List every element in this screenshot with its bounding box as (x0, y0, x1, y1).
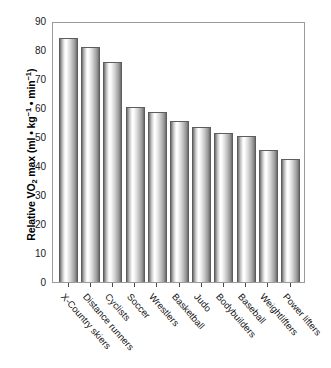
bars-container (53, 23, 304, 282)
bar (103, 62, 122, 282)
bar (170, 121, 189, 282)
y-axis-title-tail: ) (25, 69, 37, 72)
y-axis-tick-label: 90 (0, 17, 46, 27)
bar (214, 133, 233, 282)
y-axis-tick-label: 70 (0, 75, 46, 85)
x-axis-tick-mark (112, 283, 113, 287)
x-axis-tick-mark (156, 283, 157, 287)
x-axis-tick-mark (134, 283, 135, 287)
x-axis-tick-mark (179, 283, 180, 287)
chart-figure: Relative VO2 max (ml • kg−1 • min−1) 010… (0, 0, 331, 368)
y-axis-tick-label: 80 (0, 46, 46, 56)
bar (148, 112, 167, 282)
bar (192, 127, 211, 282)
bar (59, 38, 78, 282)
bar (281, 159, 300, 282)
y-axis-title-subscript: 2 (30, 179, 39, 183)
x-axis-tick-mark (290, 283, 291, 287)
y-axis-tick-label: 0 (0, 278, 46, 288)
bar (259, 150, 278, 282)
y-axis-tick-label: 20 (0, 220, 46, 230)
y-axis-title: Relative VO2 max (ml • kg−1 • min−1) (25, 25, 39, 285)
y-axis-tick-label: 10 (0, 249, 46, 259)
x-axis-tick-mark (267, 283, 268, 287)
x-axis-tick-mark (68, 283, 69, 287)
y-axis-tick-label: 40 (0, 162, 46, 172)
x-axis-tick-mark (223, 283, 224, 287)
bar (126, 107, 145, 282)
x-axis-tick-mark (90, 283, 91, 287)
bar (237, 136, 256, 282)
plot-area (52, 22, 305, 283)
x-axis-tick-mark (201, 283, 202, 287)
y-axis-tick-label: 60 (0, 104, 46, 114)
y-axis-tick-label: 30 (0, 191, 46, 201)
bar (81, 47, 100, 282)
x-axis-tick-mark (245, 283, 246, 287)
y-axis-tick-label: 50 (0, 133, 46, 143)
